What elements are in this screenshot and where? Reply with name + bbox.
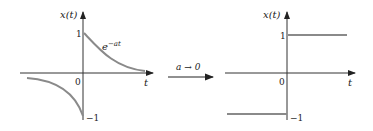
left-plot: x(t) t 0 1 −1 e−at — [20, 9, 153, 123]
right-plot: x(t) t 0 1 −1 — [225, 9, 355, 123]
signal-diagram: x(t) t 0 1 −1 e−at a → 0 x(t) t 0 1 −1 — [0, 0, 373, 131]
left-origin-label: 0 — [75, 77, 81, 87]
right-tick-pos: 1 — [280, 31, 286, 41]
left-y-axis-label: x(t) — [60, 9, 78, 20]
transition-arrow: a → 0 — [168, 62, 213, 77]
limit-label: a → 0 — [176, 62, 201, 72]
left-curve-label: e−at — [102, 40, 121, 52]
left-tick-neg: −1 — [86, 113, 99, 123]
left-tick-pos: 1 — [76, 29, 82, 39]
left-x-axis-label: t — [144, 77, 149, 88]
left-decay-curve — [84, 33, 145, 71]
right-x-axis-label: t — [348, 77, 353, 88]
right-tick-neg: −1 — [290, 113, 303, 123]
right-origin-label: 0 — [279, 77, 285, 87]
right-y-axis-label: x(t) — [263, 9, 281, 20]
